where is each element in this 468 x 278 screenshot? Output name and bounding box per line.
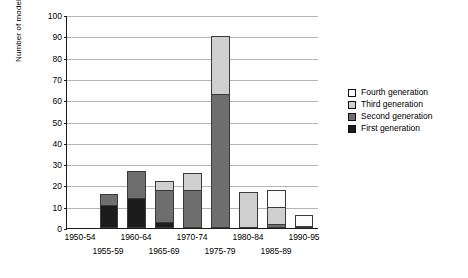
y-axis-tick-mark: [64, 229, 67, 230]
bar-stack[interactable]: [211, 36, 230, 228]
bar-stack[interactable]: [100, 194, 119, 228]
legend-item[interactable]: Second generation: [348, 112, 432, 121]
bar-slot: [123, 16, 151, 228]
x-axis-labels: 1950-541955-591960-641965-691970-741975-…: [66, 232, 318, 266]
bar-stack[interactable]: [127, 171, 146, 229]
legend-label: Second generation: [361, 112, 432, 121]
legend-label: First generation: [361, 124, 420, 133]
bar-stack[interactable]: [295, 215, 314, 228]
bar-slot: [262, 16, 290, 228]
bar-segment[interactable]: [239, 192, 258, 228]
bar-stack[interactable]: [183, 173, 202, 228]
x-axis-tick-label: 1975-79: [204, 246, 235, 256]
bar-stack[interactable]: [267, 190, 286, 228]
x-axis-tick-label: 1990-95: [288, 232, 319, 242]
legend-item[interactable]: Third generation: [348, 100, 432, 109]
bars-layer: [67, 16, 318, 228]
bar-segment[interactable]: [267, 224, 286, 228]
y-axis-title: Number of models: [14, 0, 23, 62]
bar-stack[interactable]: [239, 192, 258, 228]
bar-slot: [290, 16, 318, 228]
bar-segment[interactable]: [295, 226, 314, 228]
legend: Fourth generationThird generationSecond …: [348, 88, 432, 133]
y-axis-tick-label: 10: [53, 204, 62, 212]
bar-slot: [151, 16, 179, 228]
y-axis-tick-label: 100: [48, 12, 62, 20]
plot-area: 0102030405060708090100: [66, 16, 318, 229]
bar-segment[interactable]: [100, 205, 119, 228]
x-axis-tick-label: 1955-59: [92, 246, 123, 256]
legend-item[interactable]: First generation: [348, 124, 432, 133]
y-axis-tick-label: 90: [53, 33, 62, 41]
bar-segment[interactable]: [155, 190, 174, 222]
bar-slot: [179, 16, 207, 228]
bar-segment[interactable]: [155, 222, 174, 228]
legend-label: Third generation: [361, 100, 423, 109]
y-axis-tick-label: 80: [53, 55, 62, 63]
legend-swatch: [348, 125, 356, 133]
x-axis-tick-label: 1965-69: [148, 246, 179, 256]
x-axis-tick-label: 1980-84: [232, 232, 263, 242]
bar-segment[interactable]: [211, 36, 230, 94]
bar-segment[interactable]: [183, 190, 202, 228]
bar-segment[interactable]: [127, 198, 146, 228]
legend-swatch: [348, 89, 356, 97]
y-axis-tick-label: 50: [53, 119, 62, 127]
legend-item[interactable]: Fourth generation: [348, 88, 432, 97]
bar-slot: [234, 16, 262, 228]
y-axis-tick-label: 40: [53, 140, 62, 148]
y-axis-tick-label: 20: [53, 182, 62, 190]
y-axis-tick-label: 70: [53, 76, 62, 84]
legend-swatch: [348, 101, 356, 109]
y-axis-tick-label: 60: [53, 97, 62, 105]
x-axis-tick-label: 1985-89: [260, 246, 291, 256]
bar-segment[interactable]: [100, 194, 119, 205]
bar-segment[interactable]: [183, 173, 202, 190]
bar-segment[interactable]: [267, 190, 286, 207]
x-axis-tick-label: 1970-74: [176, 232, 207, 242]
x-axis-tick-label: 1950-54: [64, 232, 95, 242]
bar-segment[interactable]: [155, 181, 174, 190]
bar-slot: [206, 16, 234, 228]
bar-slot: [95, 16, 123, 228]
legend-swatch: [348, 113, 356, 121]
legend-label: Fourth generation: [361, 88, 428, 97]
bar-segment[interactable]: [267, 207, 286, 224]
bar-stack[interactable]: [155, 181, 174, 228]
y-axis-tick-label: 30: [53, 161, 62, 169]
stacked-bar-chart: Number of models 0102030405060708090100 …: [0, 0, 468, 278]
bar-segment[interactable]: [211, 94, 230, 228]
bar-segment[interactable]: [127, 171, 146, 199]
bar-slot: [67, 16, 95, 228]
x-axis-tick-label: 1960-64: [120, 232, 151, 242]
bar-segment[interactable]: [295, 215, 314, 226]
y-axis-tick-label: 0: [57, 225, 62, 233]
